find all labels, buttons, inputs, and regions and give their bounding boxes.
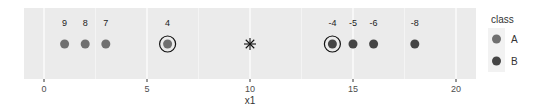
x-axis-label: x1 (245, 95, 256, 106)
legend-title: class (491, 14, 514, 25)
data-point (101, 40, 110, 49)
x-tick-label: 0 (41, 84, 46, 94)
data-point (60, 40, 69, 49)
data-point (163, 40, 172, 49)
legend-swatch (492, 35, 501, 44)
x-tick-label: 5 (144, 84, 149, 94)
data-point (81, 40, 90, 49)
data-point (410, 40, 419, 49)
point-label: -5 (349, 18, 357, 28)
legend-label: B (511, 56, 518, 67)
data-point (328, 40, 337, 49)
legend-label: A (511, 34, 518, 45)
x-tick-label: 20 (451, 84, 461, 94)
point-label: 9 (62, 18, 67, 28)
x-axis: 05101520 (41, 79, 461, 94)
point-label: 4 (165, 18, 170, 28)
x-tick-label: 10 (245, 84, 255, 94)
data-point (369, 40, 378, 49)
point-label: -8 (411, 18, 419, 28)
data-point (349, 40, 358, 49)
point-label: 7 (103, 18, 108, 28)
scatter-chart: 9874-4-5-6-8 05101520 x1 class AB (0, 0, 539, 109)
legend-swatch (492, 57, 501, 66)
point-label: -6 (370, 18, 378, 28)
query-point-asterisk-icon (244, 38, 256, 50)
point-label: 8 (83, 18, 88, 28)
point-label: -4 (328, 18, 336, 28)
legend: class AB (488, 14, 518, 72)
x-tick-label: 15 (348, 84, 358, 94)
